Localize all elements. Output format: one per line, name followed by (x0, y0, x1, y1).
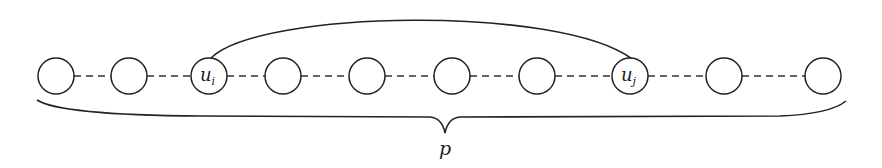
node-uj: uj (612, 58, 648, 94)
brace-label: p (439, 137, 451, 159)
node-n1 (38, 58, 74, 94)
arc-ui-uj (211, 20, 632, 59)
nodes: uiuj (38, 58, 841, 94)
node-n10 (805, 58, 841, 94)
node-ui: ui (191, 58, 227, 94)
brace-p (37, 100, 846, 133)
node-n7 (519, 58, 555, 94)
node-n9 (706, 58, 742, 94)
node-n4 (265, 58, 301, 94)
path-diagram: uiuj p (0, 0, 882, 168)
node-n5 (349, 58, 385, 94)
node-n6 (434, 58, 470, 94)
node-n2 (111, 58, 147, 94)
